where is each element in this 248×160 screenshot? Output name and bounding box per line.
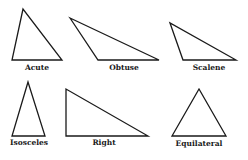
- acute-triangle-shape: [12, 9, 62, 60]
- triangle-acute: Acute: [12, 9, 62, 72]
- isosceles-triangle-shape: [12, 82, 45, 136]
- acute-label: Acute: [24, 63, 49, 72]
- triangle-isosceles: Isosceles: [10, 82, 48, 147]
- triangle-equilateral: Equilateral: [172, 89, 226, 148]
- triangle-types-diagram: Acute Obtuse Scalene Isosceles Right Equ…: [0, 0, 248, 160]
- scalene-label: Scalene: [193, 63, 226, 72]
- obtuse-label: Obtuse: [109, 63, 139, 72]
- triangle-obtuse: Obtuse: [70, 18, 159, 72]
- scalene-triangle-shape: [170, 23, 236, 60]
- triangle-scalene: Scalene: [170, 23, 236, 72]
- isosceles-label: Isosceles: [10, 138, 48, 147]
- triangle-right: Right: [66, 89, 148, 147]
- right-label: Right: [92, 138, 116, 147]
- right-triangle-shape: [66, 89, 148, 136]
- equilateral-label: Equilateral: [176, 139, 223, 148]
- equilateral-triangle-shape: [172, 89, 226, 136]
- obtuse-triangle-shape: [70, 18, 159, 60]
